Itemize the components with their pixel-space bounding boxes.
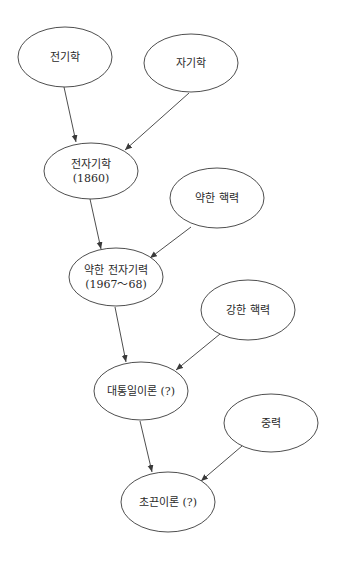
- node-electricity: 전기학: [18, 27, 112, 87]
- node-strong-nuclear-force: 강한 핵력: [201, 280, 295, 340]
- node-label: 대통일이론 (?): [107, 384, 175, 398]
- node-electroweak-force: 약한 전자기력(1967～68): [69, 248, 163, 306]
- arrow-electricity-to-electromagnetism: [64, 87, 76, 142]
- node-label: 자기학: [176, 57, 206, 70]
- node-magnetism: 자기학: [144, 34, 238, 92]
- arrow-grand-unified-theory-to-superstring-theory: [140, 421, 152, 472]
- arrow-strong-nuclear-force-to-grand-unified-theory: [176, 334, 220, 370]
- node-label: (1860): [73, 172, 110, 185]
- node-label: (1967～68): [85, 278, 147, 291]
- nodes-layer: 전기학자기학전자기학(1860)약한 핵력약한 전자기력(1967～68)강한 …: [18, 27, 318, 532]
- arrow-electromagnetism-to-electroweak-force: [90, 199, 101, 249]
- node-label: 전자기학: [71, 158, 111, 171]
- node-gravity: 중력: [224, 394, 318, 452]
- unification-diagram: 전기학자기학전자기학(1860)약한 핵력약한 전자기력(1967～68)강한 …: [0, 0, 337, 561]
- node-electromagnetism: 전자기학(1860): [44, 143, 138, 199]
- node-grand-unified-theory: 대통일이론 (?): [94, 362, 188, 420]
- arrow-electroweak-force-to-grand-unified-theory: [115, 307, 126, 362]
- arrow-weak-nuclear-force-to-electroweak-force: [150, 227, 191, 258]
- node-label: 초끈이론 (?): [139, 496, 197, 509]
- arrow-magnetism-to-electromagnetism: [125, 93, 189, 150]
- node-label: 중력: [261, 417, 281, 430]
- node-label: 약한 전자기력: [84, 263, 148, 277]
- node-label: 전기학: [50, 51, 80, 64]
- node-weak-nuclear-force: 약한 핵력: [170, 168, 264, 228]
- node-ellipse: [44, 143, 138, 199]
- arrow-gravity-to-superstring-theory: [201, 446, 242, 481]
- node-superstring-theory: 초끈이론 (?): [121, 472, 215, 532]
- node-label: 강한 핵력: [226, 304, 270, 317]
- node-label: 약한 핵력: [195, 191, 239, 205]
- node-ellipse: [69, 248, 163, 306]
